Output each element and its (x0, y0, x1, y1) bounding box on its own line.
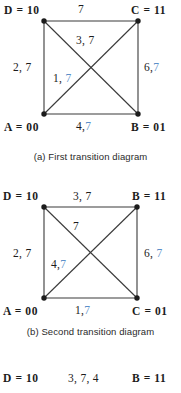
edge-label-diagonal-tl-br: 3, 7 (76, 35, 94, 47)
node-label-top-right: B = 11 (132, 191, 166, 203)
edge-label-diagonal-bl-tr: 4,7 (51, 259, 66, 271)
node-label-bottom-right: C = 01 (132, 306, 168, 318)
node-bottom-right-dot (135, 111, 140, 116)
edge-label-left-black: 2, 7 (13, 61, 31, 73)
figure-third-transition-diagram: D = 10 3, 7, 4 B = 11 (0, 345, 181, 393)
node-top-left-dot (41, 204, 46, 209)
node-top-left-dot (41, 18, 46, 23)
edge-label-top: 3, 7, 4 (68, 373, 99, 385)
edge-label-bottom: 4,7 (76, 121, 91, 133)
edge-label-right-blue: 7 (156, 247, 162, 259)
edge-label-top-black: 7 (78, 3, 84, 15)
edge-label-diagonal-bl-tr-black: 1, (53, 72, 62, 84)
figure-second-transition-diagram: D = 10 B = 11 A = 00 C = 01 3, 7 2, 7 6,… (0, 180, 181, 345)
edge-label-diagonal-tl-br-black: 3, 7 (76, 34, 94, 46)
node-bottom-right-dot (134, 295, 139, 300)
edge-label-right: 6, 7 (144, 248, 162, 260)
edge-label-bottom-blue: 7 (85, 120, 91, 132)
second-diagram-graph (0, 180, 181, 345)
node-label-top-left: D = 10 (3, 373, 39, 385)
figure-first-transition-diagram: D = 10 C = 11 A = 00 B = 01 7 2, 7 6,7 4… (0, 0, 181, 180)
edge-label-diagonal-bl-tr-black: 4, (51, 258, 60, 270)
node-bottom-left-dot (41, 111, 46, 116)
node-label-top-left: D = 10 (3, 191, 39, 203)
edge-label-right-blue: 7 (153, 61, 159, 73)
node-bottom-left-dot (41, 295, 46, 300)
edge-label-right: 6,7 (144, 62, 159, 74)
edge-label-bottom-black: 4, (76, 120, 85, 132)
edge-label-diagonal-tl-br-black: 7 (73, 220, 79, 232)
edge-label-top-black: 3, 7, 4 (68, 372, 99, 384)
edge-label-left: 2, 7 (13, 62, 31, 74)
edge-label-top: 3, 7 (73, 191, 91, 203)
node-top-right-dot (134, 204, 139, 209)
node-label-top-left: D = 10 (4, 5, 40, 17)
edge-label-diagonal-bl-tr-blue: 7 (65, 72, 71, 84)
edge-label-right-black: 6, (144, 247, 153, 259)
edge-label-bottom-blue: 7 (84, 304, 90, 316)
edge-label-top-black: 3, 7 (73, 190, 91, 202)
node-top-right-dot (135, 18, 140, 23)
edge-label-diagonal-tl-br: 7 (73, 221, 79, 233)
node-label-bottom-left: A = 00 (3, 306, 38, 318)
node-label-top-right: B = 11 (132, 373, 166, 385)
edge-label-bottom: 1,7 (75, 305, 90, 317)
node-label-bottom-right: B = 01 (131, 122, 166, 134)
figure-page: D = 10 C = 11 A = 00 B = 01 7 2, 7 6,7 4… (0, 0, 181, 393)
node-label-bottom-left: A = 00 (4, 122, 39, 134)
edge-label-bottom-black: 1, (75, 304, 84, 316)
edge-label-top: 7 (78, 4, 84, 16)
node-label-top-right: C = 11 (131, 5, 166, 17)
edge-label-diagonal-bl-tr-blue: 7 (60, 258, 66, 270)
edge-label-right-black: 6, (144, 61, 153, 73)
edge-label-left: 2, 7 (13, 248, 31, 260)
figure-caption-a: (a) First transition diagram (0, 151, 181, 162)
figure-caption-b: (b) Second transition diagram (0, 326, 181, 337)
edge-label-diagonal-bl-tr: 1, 7 (53, 73, 71, 85)
edge-label-left-black: 2, 7 (13, 247, 31, 259)
